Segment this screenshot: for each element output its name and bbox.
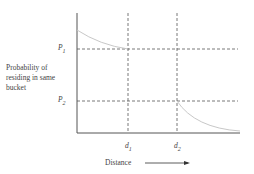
p1-label: P1	[58, 43, 66, 56]
y-label-line-2: residing in same	[6, 73, 68, 83]
probability-curve-near	[77, 30, 128, 49]
y-label-line-1: Probability of	[6, 63, 68, 73]
probability-curve-far	[177, 101, 240, 131]
d2-label: d2	[174, 141, 181, 154]
arrow-head-icon	[184, 161, 190, 165]
p2-label: P2	[58, 95, 66, 108]
x-axis-label: Distance	[105, 158, 131, 167]
y-label-line-3: bucket	[6, 83, 68, 93]
d1-label: d1	[125, 141, 132, 154]
y-axis-label: Probability of residing in same bucket	[6, 63, 68, 93]
